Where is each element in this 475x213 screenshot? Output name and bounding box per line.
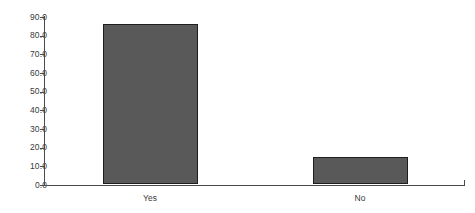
x-axis-category-label: Yes	[45, 192, 255, 204]
plot-area	[45, 16, 465, 185]
x-axis-line	[44, 185, 465, 186]
bar	[103, 24, 198, 184]
x-axis-category-label: No	[255, 192, 465, 204]
bar	[313, 157, 408, 184]
bar-chart: 0.010.020.030.040.050.060.070.080.090.0 …	[0, 0, 475, 213]
